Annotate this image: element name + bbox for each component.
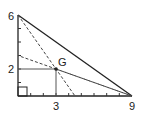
label-centroid-G: G	[58, 56, 67, 68]
label-y-6: 6	[8, 10, 14, 22]
triangle-diagram: 6 2 3 9 G	[0, 0, 146, 117]
label-x-9: 9	[129, 100, 135, 112]
label-y-2: 2	[8, 63, 14, 75]
label-x-3: 3	[53, 100, 59, 112]
